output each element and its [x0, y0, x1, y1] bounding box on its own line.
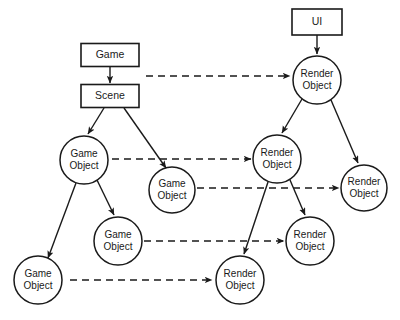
node-go_2[interactable]: GameObject	[149, 167, 195, 213]
solid-hierarchy-arrow	[290, 180, 305, 215]
node-label: Scene	[95, 89, 125, 101]
node-label-line1: Render	[224, 268, 257, 279]
solid-hierarchy-arrow	[331, 100, 358, 163]
node-ro_4[interactable]: RenderObject	[216, 256, 264, 304]
node-label-line1: Render	[294, 229, 327, 240]
node-label-line2: Object	[70, 160, 99, 171]
node-label-line2: Object	[24, 280, 53, 291]
node-label-line2: Object	[158, 190, 187, 201]
node-label-line1: Game	[104, 229, 132, 240]
node-go_1[interactable]: GameObject	[60, 136, 108, 184]
node-ui[interactable]: UI	[292, 9, 342, 35]
node-label-line1: Render	[348, 176, 381, 187]
node-label: UI	[312, 15, 323, 27]
node-label-line2: Object	[263, 159, 292, 170]
node-label-line1: Game	[24, 268, 52, 279]
node-label-line1: Render	[301, 68, 334, 79]
node-ro_top[interactable]: RenderObject	[293, 56, 341, 104]
diagram-canvas: GameSceneUIRenderObjectGameObjectGameObj…	[0, 0, 400, 320]
node-game[interactable]: Game	[81, 44, 139, 67]
node-label-line2: Object	[104, 241, 133, 252]
node-label-line1: Game	[70, 148, 98, 159]
node-go_3[interactable]: GameObject	[94, 217, 142, 265]
node-ro_rgt[interactable]: RenderObject	[341, 165, 387, 211]
node-ro_mid[interactable]: RenderObject	[253, 135, 301, 183]
node-layer: GameSceneUIRenderObjectGameObjectGameObj…	[14, 9, 387, 304]
solid-hierarchy-arrow	[48, 183, 76, 258]
node-label: Game	[96, 48, 125, 60]
solid-hierarchy-arrow	[244, 182, 268, 254]
node-label-line1: Game	[158, 178, 186, 189]
solid-hierarchy-arrow	[88, 108, 104, 134]
node-label-line2: Object	[350, 188, 379, 199]
node-ro_3[interactable]: RenderObject	[286, 217, 334, 265]
node-label-line2: Object	[296, 241, 325, 252]
node-go_4[interactable]: GameObject	[14, 256, 62, 304]
node-label-line2: Object	[226, 280, 255, 291]
node-label-line2: Object	[303, 80, 332, 91]
node-scene[interactable]: Scene	[81, 85, 139, 108]
node-label-line1: Render	[261, 147, 294, 158]
solid-hierarchy-arrow	[282, 99, 302, 133]
solid-hierarchy-arrow	[97, 180, 114, 215]
diagram-svg: GameSceneUIRenderObjectGameObjectGameObj…	[0, 0, 400, 320]
